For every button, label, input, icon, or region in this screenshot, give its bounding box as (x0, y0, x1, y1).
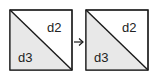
left-d2-label: d2 (47, 21, 61, 34)
right-d3-label: d3 (94, 51, 108, 64)
right-d2-label: d2 (122, 21, 136, 34)
arrow-icon (74, 39, 83, 46)
left-d3-label: d3 (18, 51, 32, 64)
